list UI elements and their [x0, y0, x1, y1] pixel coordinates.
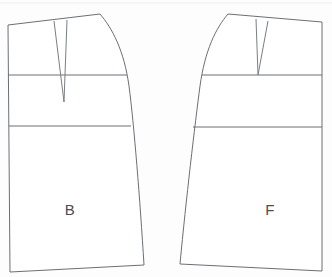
back-panel-label: B — [65, 201, 76, 218]
panel-back[interactable]: B — [8, 14, 144, 272]
front-panel-label: F — [265, 201, 275, 218]
front-panel-outline[interactable] — [180, 14, 322, 271]
panel-front[interactable]: F — [180, 14, 322, 271]
pattern-svg: B F — [0, 0, 332, 277]
back-panel-outline[interactable] — [8, 14, 144, 272]
pattern-drawing-canvas: B F — [0, 0, 332, 277]
